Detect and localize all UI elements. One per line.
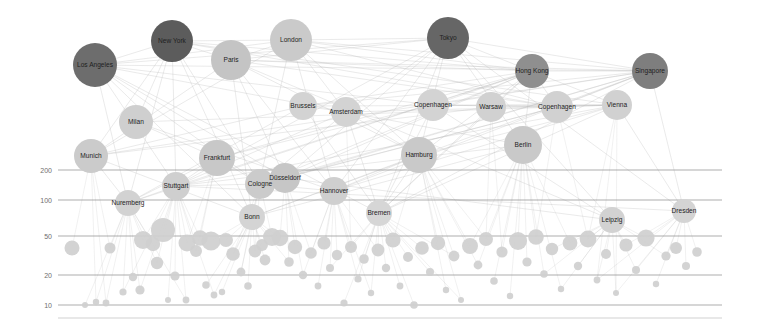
scatter-node[interactable] — [692, 247, 702, 257]
scatter-node[interactable] — [368, 290, 374, 296]
scatter-node[interactable] — [496, 246, 507, 257]
scatter-node[interactable] — [509, 232, 527, 250]
scatter-node[interactable] — [65, 241, 80, 256]
scatter-node[interactable] — [490, 277, 498, 285]
city-node-label: Paris — [223, 56, 239, 63]
scatter-node[interactable] — [135, 285, 144, 294]
scatter-node[interactable] — [558, 286, 564, 292]
scatter-node[interactable] — [359, 254, 369, 264]
scatter-node[interactable] — [299, 271, 307, 279]
scatter-node[interactable] — [211, 292, 218, 299]
scatter-node[interactable] — [93, 299, 99, 305]
scatter-node[interactable] — [372, 244, 385, 257]
scatter-node[interactable] — [522, 257, 531, 266]
axis-tick-layer: 200100502010 — [40, 167, 52, 309]
scatter-node[interactable] — [219, 289, 225, 295]
scatter-node[interactable] — [345, 241, 357, 253]
scatter-node[interactable] — [507, 293, 513, 299]
scatter-node[interactable] — [397, 283, 404, 290]
scatter-node[interactable] — [458, 297, 464, 303]
scatter-node[interactable] — [326, 264, 334, 272]
scatter-node[interactable] — [129, 273, 137, 281]
scatter-node[interactable] — [105, 243, 116, 254]
scatter-node[interactable] — [619, 238, 632, 251]
scatter-node[interactable] — [354, 275, 361, 282]
scatter-node[interactable] — [332, 250, 342, 260]
scatter-node[interactable] — [82, 302, 88, 308]
scatter-node[interactable] — [183, 297, 190, 304]
city-node-label: Bonn — [244, 213, 260, 220]
scatter-node[interactable] — [151, 257, 163, 269]
scatter-node[interactable] — [637, 229, 654, 246]
city-node-label: Nuremberg — [112, 199, 145, 207]
scatter-node[interactable] — [528, 229, 544, 245]
scatter-node[interactable] — [410, 301, 418, 309]
scatter-node[interactable] — [305, 247, 317, 259]
scatter-node[interactable] — [103, 300, 110, 307]
scatter-node[interactable] — [202, 281, 210, 289]
scatter-node[interactable] — [165, 297, 171, 303]
scatter-node[interactable] — [151, 218, 175, 242]
scatter-node[interactable] — [315, 283, 322, 290]
scatter-node[interactable] — [244, 282, 252, 290]
scatter-node[interactable] — [237, 268, 246, 277]
scatter-node[interactable] — [170, 271, 179, 280]
scatter-node[interactable] — [284, 257, 294, 267]
city-node-label: Cologne — [248, 180, 273, 188]
scatter-node[interactable] — [226, 247, 240, 261]
city-node-label: Brussels — [290, 102, 316, 109]
scatter-node[interactable] — [426, 268, 434, 276]
scatter-node[interactable] — [462, 238, 478, 254]
scatter-node[interactable] — [219, 233, 233, 247]
scatter-node[interactable] — [601, 249, 611, 259]
city-node-label: Hamburg — [405, 151, 432, 159]
city-node-label: Bremen — [367, 209, 390, 216]
city-node-label: Dresden — [672, 207, 697, 214]
scatter-node[interactable] — [202, 232, 221, 251]
scatter-node[interactable] — [385, 232, 400, 247]
scatter-node[interactable] — [661, 251, 670, 260]
city-node-label: Stuttgart — [164, 182, 189, 190]
scatter-node[interactable] — [382, 264, 390, 272]
scatter-node[interactable] — [119, 288, 126, 295]
scatter-node[interactable] — [580, 231, 597, 248]
graph-canvas[interactable]: 200100502010 Los AngelesNew YorkParisLon… — [0, 0, 757, 331]
city-node-label: Copenhagen — [538, 103, 576, 111]
city-node-label: New York — [158, 37, 187, 44]
scatter-node[interactable] — [260, 255, 271, 266]
scatter-node[interactable] — [682, 262, 690, 270]
city-node-label: Warsaw — [479, 103, 503, 110]
scatter-node[interactable] — [540, 270, 548, 278]
scatter-node[interactable] — [546, 243, 558, 255]
scatter-node[interactable] — [415, 241, 429, 255]
scatter-node[interactable] — [632, 266, 640, 274]
city-node-label: Amsterdam — [329, 108, 363, 115]
scatter-node[interactable] — [613, 290, 619, 296]
scatter-node[interactable] — [449, 251, 460, 262]
city-node-label: London — [280, 36, 302, 43]
scatter-node[interactable] — [317, 236, 330, 249]
scatter-node[interactable] — [190, 245, 202, 257]
city-node-label: Tokyo — [439, 34, 457, 42]
scatter-node[interactable] — [431, 236, 445, 250]
scatter-node[interactable] — [443, 287, 449, 293]
scatter-node[interactable] — [479, 232, 493, 246]
scatter-node[interactable] — [403, 252, 413, 262]
scatter-node[interactable] — [574, 262, 582, 270]
scatter-node[interactable] — [670, 242, 682, 254]
scatter-node[interactable] — [288, 240, 302, 254]
city-node-label: Milan — [128, 118, 144, 125]
scatter-node[interactable] — [594, 277, 601, 284]
labeled-node-layer[interactable] — [73, 17, 696, 233]
y-axis-tick-label: 10 — [44, 302, 52, 309]
scatter-node[interactable] — [340, 299, 347, 306]
city-node-label: Munich — [80, 152, 102, 159]
scatter-node[interactable] — [563, 236, 578, 251]
city-node-label: Frankfurt — [204, 154, 231, 161]
scatter-node[interactable] — [474, 261, 483, 270]
y-axis-tick-label: 50 — [44, 233, 52, 240]
y-axis-tick-label: 20 — [44, 272, 52, 279]
city-node-label: Singapore — [635, 67, 665, 75]
scatter-node[interactable] — [653, 281, 659, 287]
scatter-node[interactable] — [272, 230, 288, 246]
